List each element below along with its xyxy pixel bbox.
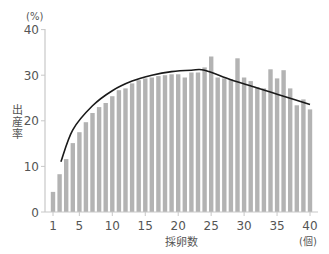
bar [288, 88, 292, 212]
bar [229, 79, 233, 212]
y-tick-label: 20 [24, 114, 39, 128]
y-axis-title-char: 出 [12, 103, 23, 117]
bar [130, 83, 134, 212]
bar [137, 80, 141, 212]
x-tick-label: 40 [302, 219, 317, 233]
bar [163, 75, 167, 212]
bar [255, 87, 259, 212]
bar [275, 78, 279, 212]
y-axis-title: 出産率 [12, 103, 23, 141]
bar [169, 74, 173, 212]
bar-series [51, 57, 312, 213]
y-axis-ticks: 010203040 [24, 23, 45, 219]
y-tick-label: 10 [24, 160, 39, 174]
bar [90, 113, 94, 212]
bar [176, 74, 180, 212]
x-tick-label: 30 [236, 219, 251, 233]
bar [71, 143, 75, 212]
bar [202, 67, 206, 212]
bar [209, 57, 213, 213]
x-tick-label: 35 [269, 219, 284, 233]
bar [57, 174, 61, 212]
x-tick-label: 20 [171, 219, 186, 233]
bar [262, 88, 266, 212]
bar [110, 96, 114, 212]
bar [222, 78, 226, 212]
y-tick-label: 0 [31, 206, 39, 220]
y-axis-unit: (%) [26, 11, 43, 22]
y-axis-title-char: 率 [12, 127, 23, 141]
y-tick-label: 40 [24, 23, 39, 37]
x-tick-label: 25 [204, 219, 219, 233]
birth-rate-chart: 010203040 1510152025303540 (%) (個) 採卵数 出… [0, 0, 329, 254]
bar [156, 76, 160, 212]
bar [196, 73, 200, 213]
x-tick-label: 15 [138, 219, 153, 233]
x-axis-ticks: 1510152025303540 [49, 212, 317, 233]
bar [301, 99, 305, 212]
bar [104, 103, 108, 212]
x-axis-unit: (個) [299, 235, 317, 247]
bar [189, 73, 193, 213]
x-tick-label: 5 [76, 219, 84, 233]
bar [117, 90, 121, 212]
bar [249, 81, 253, 212]
bar [150, 78, 154, 213]
bar [183, 78, 187, 213]
bar [123, 88, 127, 212]
bar [77, 132, 81, 212]
bar [51, 192, 55, 212]
bar [268, 69, 272, 212]
x-tick-label: 1 [49, 219, 57, 233]
bar [216, 78, 220, 213]
bar [295, 105, 299, 212]
x-tick-label: 10 [105, 219, 120, 233]
bar [143, 78, 147, 212]
bar [308, 109, 312, 212]
y-tick-label: 30 [24, 69, 39, 83]
x-axis-title: 採卵数 [165, 235, 198, 249]
bar [84, 122, 88, 212]
bar [64, 159, 68, 212]
bar [242, 78, 246, 213]
bar [281, 70, 285, 212]
bar [97, 107, 101, 212]
